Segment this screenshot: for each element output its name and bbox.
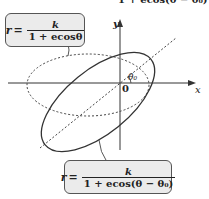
formula-denominator: 1 + ecos(θ − θ₀) [82, 177, 176, 189]
formula-numerator: k [52, 19, 59, 30]
formula-fraction: k 1 + ecos(θ − θ₀) [82, 166, 176, 189]
y-axis-label: y [113, 18, 119, 29]
x-axis-label: x [195, 84, 201, 95]
formula-fraction: k 1 + ecosθ [27, 19, 85, 42]
formula-box-polar-conic: r = k 1 + ecosθ [5, 13, 85, 47]
origin-label: 0 [122, 83, 129, 94]
formula-denominator: 1 + ecosθ [27, 30, 85, 42]
formula-eq: = [69, 171, 78, 184]
formula-lhs: r [61, 171, 67, 184]
formula-box-rotated-conic: r = k 1 + ecos(θ − θ₀) [64, 160, 172, 194]
angle-label: θ₀ [128, 72, 137, 82]
formula-lhs: r [6, 24, 12, 37]
leader-line-2 [99, 140, 107, 162]
formula-numerator: k [125, 166, 132, 177]
formula-eq: = [13, 24, 22, 37]
original-ellipse [27, 54, 149, 116]
